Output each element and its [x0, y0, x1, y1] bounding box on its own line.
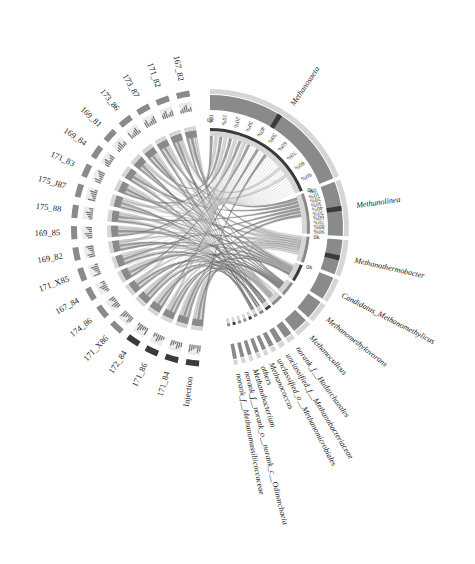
sample-label: 173_86: [98, 86, 122, 112]
abs-tick-label: 0k: [306, 264, 312, 270]
genus-outer-arc: [237, 342, 244, 357]
sample-label: 173_87: [121, 72, 142, 99]
chord-diagram: 0%10%20%30%40%50%60%70%80%90%0%10%20%30%…: [0, 0, 475, 564]
sample-outer-arc: [145, 345, 159, 356]
sample-outer-arc: [126, 334, 140, 346]
genus-label: Methanothermobacter: [353, 255, 427, 280]
sample-label: Injection: [181, 375, 195, 407]
sample-label: 169_85: [34, 227, 60, 238]
sample-label: 175_J87: [37, 173, 67, 191]
genus-outer-arc: [250, 338, 259, 353]
sample-outer-arc: [104, 129, 117, 143]
sample-inner-arc: [192, 318, 204, 326]
genus-inner-arc: [231, 317, 235, 323]
sample-stack-bar: [118, 310, 134, 326]
genus-outer-arc: [244, 340, 252, 355]
sample-stack-piece: [89, 218, 92, 219]
percent-tick-label: 20%: [233, 116, 242, 128]
sample-label: 171_84: [155, 370, 172, 398]
genus-outer-arc-light: [270, 346, 277, 353]
sample-label: 167_84: [53, 295, 81, 316]
segment-labels: 0%10%20%30%40%50%60%70%80%90%0%10%20%30%…: [34, 55, 436, 526]
sample-outer-arc: [155, 95, 169, 105]
sample-label: 169_82: [37, 251, 64, 266]
sample-outer-arc: [96, 304, 109, 318]
abs-tick-label: 0k: [307, 187, 313, 193]
sample-outer-arc: [71, 226, 77, 239]
genus-outer-arc-light: [263, 350, 269, 356]
sample-outer-arc: [164, 354, 178, 363]
percent-tick-label: 50%: [267, 132, 278, 144]
sample-inner-arc: [111, 210, 119, 222]
percent-tick-label: 10%: [221, 114, 228, 126]
sample-outer-arc: [72, 247, 80, 261]
percent-tick-label: 40%: [256, 126, 266, 139]
sample-label: 169_81: [79, 104, 105, 129]
sample-label: 172_84: [106, 348, 129, 375]
sample-outer-arc: [119, 115, 133, 128]
sample-outer-arc: [185, 359, 199, 367]
genus-label: Methanosaeta: [288, 65, 321, 108]
genus-outer-arc-light: [233, 359, 238, 365]
sample-label: 171_83: [49, 149, 76, 169]
percent-tick-label: 70%: [285, 150, 297, 162]
sample-outer-arc: [71, 204, 79, 218]
sample-outer-arc: [77, 267, 87, 281]
genus-inner-arc: [236, 315, 240, 321]
percent-tick-label: 60%: [277, 140, 289, 152]
chord-ribbons: [118, 136, 302, 320]
sample-outer-arc: [91, 145, 103, 159]
sample-stack-piece: [89, 231, 92, 232]
genus-outer-arc: [230, 344, 236, 359]
genus-outer-arc-light: [248, 355, 253, 361]
sample-label: 169_84: [62, 125, 89, 148]
sample-label: 167_82: [171, 55, 186, 82]
sample-inner-arc-outer: [107, 226, 111, 238]
genus-outer-arc-light: [256, 353, 262, 359]
percent-tick-label: 90%: [300, 172, 313, 182]
abs-tick-label: 0k: [207, 117, 213, 123]
sample-stack-piece: [88, 229, 93, 230]
sample-outer-arc: [85, 287, 97, 301]
percent-tick-label: 80%: [293, 160, 305, 171]
sample-label: 171_X85: [37, 273, 70, 293]
percent-tick-label: 30%: [245, 120, 255, 132]
sample-label: 171_X86: [81, 333, 110, 363]
sample-outer-arc: [110, 320, 124, 333]
genus-inner-arc: [241, 314, 245, 320]
sample-stack-bar: [168, 339, 183, 352]
sample-outer-arc: [136, 104, 150, 116]
genus-outer-arc-light: [241, 357, 246, 363]
sample-inner-arc: [111, 226, 118, 238]
genus-inner-arc: [226, 318, 230, 323]
sample-stack-piece: [86, 227, 92, 228]
genus-label: Methanolinea: [355, 195, 401, 211]
sample-outer-arc: [176, 91, 190, 99]
sample-label: 175_88: [35, 201, 62, 214]
abs-tick-label: 0k: [314, 234, 320, 240]
sample-label: 171_86: [130, 361, 150, 388]
genus-inner-arc-band: [227, 323, 230, 326]
sample-outer-arc: [75, 183, 84, 197]
sample-label: 174_86: [68, 315, 94, 339]
sample-label: 171_82: [145, 61, 163, 88]
sample-outer-arc: [81, 163, 92, 177]
